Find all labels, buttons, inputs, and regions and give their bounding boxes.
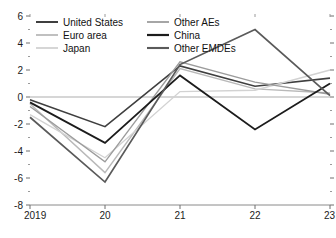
y-tick-label: 2: [17, 65, 23, 76]
legend-label-united-states: United States: [63, 17, 123, 28]
line-chart: 6420-2-4-6-8201920212223United StatesOth…: [0, 0, 336, 238]
x-tick-label: 22: [249, 210, 261, 221]
legend-label-other-aes: Other AEs: [174, 17, 220, 28]
chart-canvas: 6420-2-4-6-8201920212223United StatesOth…: [0, 0, 336, 238]
legend-label-euro-area: Euro area: [63, 30, 107, 41]
legend-label-china: China: [174, 30, 201, 41]
y-tick-label: 0: [17, 92, 23, 103]
y-tick-label: -6: [14, 173, 23, 184]
x-tick-label: 21: [174, 210, 186, 221]
y-tick-label: -2: [14, 119, 23, 130]
y-tick-label: -4: [14, 146, 23, 157]
series-line-china: [30, 75, 330, 142]
legend-label-other-emdes: Other EMDEs: [174, 43, 236, 54]
y-tick-label: 6: [17, 11, 23, 22]
legend-label-japan: Japan: [63, 43, 90, 54]
y-tick-label: 4: [17, 38, 23, 49]
y-tick-label: -8: [14, 200, 23, 211]
x-tick-label: 2019: [24, 210, 47, 221]
x-tick-label: 23: [324, 210, 336, 221]
x-tick-label: 20: [99, 210, 111, 221]
